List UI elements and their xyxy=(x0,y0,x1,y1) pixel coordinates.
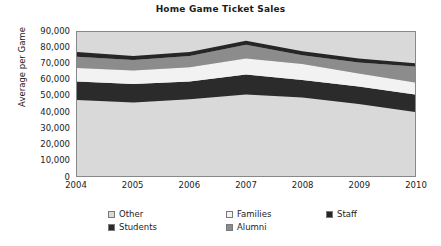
legend-item-students[interactable]: Students xyxy=(108,222,157,232)
legend-item-other[interactable]: Other xyxy=(108,209,143,219)
chart-legend: OtherFamiliesStaffStudentsAlumni xyxy=(108,209,358,239)
x-tick-label: 2009 xyxy=(339,181,379,190)
legend-label: Families xyxy=(237,209,271,219)
legend-label: Alumni xyxy=(237,222,267,232)
legend-swatch-other-icon xyxy=(108,211,115,218)
x-tick-label: 2006 xyxy=(169,181,209,190)
legend-item-families[interactable]: Families xyxy=(226,209,271,219)
x-tick-label: 2005 xyxy=(113,181,153,190)
legend-item-staff[interactable]: Staff xyxy=(326,209,357,219)
legend-item-alumni[interactable]: Alumni xyxy=(226,222,267,232)
legend-label: Students xyxy=(119,222,157,232)
x-tick-label: 2004 xyxy=(56,181,96,190)
x-tick-label: 2008 xyxy=(283,181,323,190)
chart-container: Home Game Ticket Sales Average per Game … xyxy=(0,0,441,246)
legend-swatch-students-icon xyxy=(108,224,115,231)
legend-swatch-staff-icon xyxy=(326,211,333,218)
x-tick-label: 2007 xyxy=(226,181,266,190)
x-tick-label: 2010 xyxy=(396,181,436,190)
legend-label: Other xyxy=(119,209,143,219)
legend-swatch-alumni-icon xyxy=(226,224,233,231)
legend-label: Staff xyxy=(337,209,357,219)
legend-swatch-families-icon xyxy=(226,211,233,218)
